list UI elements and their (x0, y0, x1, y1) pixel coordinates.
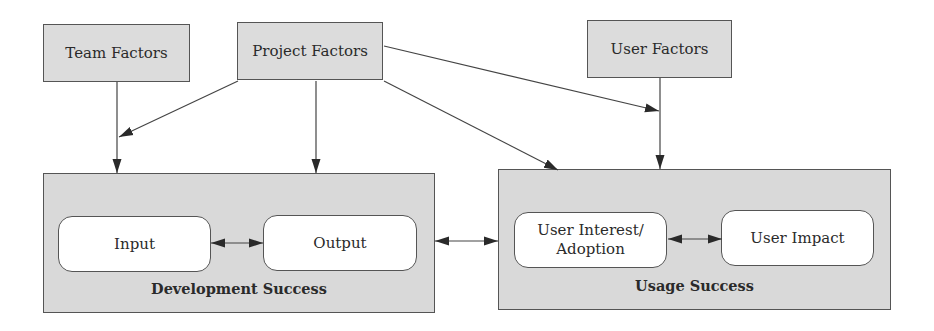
development-success-group: Input Output Development Success (43, 173, 435, 313)
user-factors-label: User Factors (611, 40, 709, 58)
user-interest-adoption-node: User Interest/ Adoption (514, 212, 667, 268)
usage-success-label: Usage Success (499, 277, 890, 294)
output-node: Output (263, 215, 417, 271)
arrow-project-to-usage (384, 81, 558, 170)
arrow-project-to-team-line (119, 81, 238, 137)
output-label: Output (313, 234, 366, 253)
project-factors-label: Project Factors (252, 42, 368, 60)
input-label: Input (114, 235, 155, 254)
team-factors-box: Team Factors (43, 24, 190, 82)
usage-success-group: User Interest/ Adoption User Impact Usag… (498, 169, 891, 310)
project-factors-box: Project Factors (237, 22, 383, 80)
team-factors-label: Team Factors (65, 44, 167, 62)
user-impact-node: User Impact (721, 210, 874, 266)
user-interest-label-line2: Adoption (556, 240, 625, 259)
user-factors-box: User Factors (587, 20, 732, 78)
development-success-label: Development Success (44, 280, 434, 297)
user-impact-label: User Impact (750, 229, 844, 248)
user-interest-label-line1: User Interest/ (537, 221, 643, 240)
input-node: Input (58, 216, 211, 272)
